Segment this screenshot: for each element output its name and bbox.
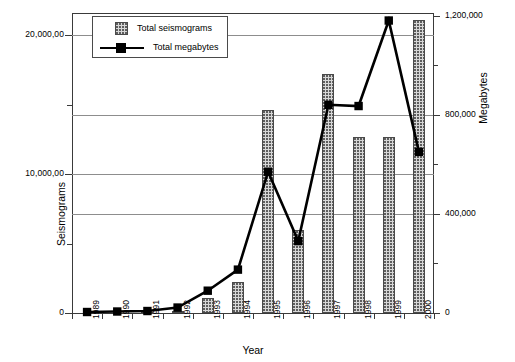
x-axis-tick-label: 1996 xyxy=(302,300,312,319)
right-axis-line xyxy=(433,13,434,313)
y-axis-minor-tick-left xyxy=(67,105,72,106)
y-axis-tick-mark-left xyxy=(65,35,72,36)
legend-item-total-seismograms: Total seismograms xyxy=(99,20,212,36)
x-axis-tick-label: 1994 xyxy=(242,300,252,319)
x-axis-title: Year xyxy=(72,344,434,356)
x-axis-tick-mark xyxy=(374,313,375,319)
bar xyxy=(262,110,274,313)
x-axis-tick-mark xyxy=(253,313,254,319)
x-axis-tick-mark xyxy=(223,313,224,319)
y-axis-minor-tick-left xyxy=(67,244,72,245)
chart-legend: Total seismograms Total megabytes xyxy=(92,16,228,58)
y-axis-tick-label-right: 0 xyxy=(445,307,515,317)
y-axis-tick-mark-left xyxy=(65,313,72,314)
x-axis-tick-label: 1997 xyxy=(332,300,342,319)
y-axis-title-right: Megabytes xyxy=(477,23,489,173)
x-axis-tick-label: 1989 xyxy=(91,300,101,319)
y-axis-tick-mark-right xyxy=(433,115,440,116)
y-axis-tick-mark-right xyxy=(433,214,440,215)
x-axis-tick-mark xyxy=(132,313,133,319)
x-axis-tick-label: 1992 xyxy=(182,300,192,319)
bar xyxy=(353,137,365,313)
seismogram-megabyte-chart: 010,000,0020,000,00 0400,000800,0001,200… xyxy=(0,0,515,362)
x-axis-tick-label: 1993 xyxy=(212,300,222,319)
x-axis-tick-mark xyxy=(193,313,194,319)
x-axis-tick-label: 1995 xyxy=(272,300,282,319)
y-axis-tick-label-left: 0 xyxy=(0,307,64,317)
gridline xyxy=(72,174,434,175)
x-axis-tick-label: 1999 xyxy=(393,300,403,319)
plot-area xyxy=(72,13,434,313)
y-axis-tick-label-right: 1,200,000 xyxy=(445,10,515,20)
bar xyxy=(413,20,425,313)
x-axis-tick-label: 1991 xyxy=(151,300,161,319)
y-axis-tick-label-right: 400,000 xyxy=(445,208,515,218)
x-axis-tick-mark xyxy=(163,313,164,319)
legend-label: Total megabytes xyxy=(153,42,219,52)
x-axis-tick-label: 1990 xyxy=(121,300,131,319)
x-axis-tick-mark xyxy=(344,313,345,319)
x-axis-tick-mark xyxy=(434,313,435,319)
y-axis-minor-tick-right xyxy=(433,65,438,66)
bar-swatch-icon xyxy=(115,22,128,35)
legend-label: Total seismograms xyxy=(137,23,212,33)
x-axis-tick-label: 1998 xyxy=(363,300,373,319)
x-axis-tick-label: 2000 xyxy=(423,300,433,319)
line-marker-swatch-icon xyxy=(100,41,144,54)
y-axis-minor-tick-right xyxy=(433,263,438,264)
bar xyxy=(383,137,395,313)
y-axis-tick-label-left: 20,000,00 xyxy=(0,29,64,39)
x-axis-tick-mark xyxy=(283,313,284,319)
y-axis-title-left: Seismograms xyxy=(55,139,67,289)
gridline xyxy=(72,115,434,116)
x-axis-tick-mark xyxy=(313,313,314,319)
x-axis-tick-mark xyxy=(72,313,73,319)
gridline xyxy=(72,214,434,215)
bar xyxy=(322,74,334,313)
x-axis-tick-mark xyxy=(404,313,405,319)
x-axis-tick-mark xyxy=(102,313,103,319)
legend-item-total-megabytes: Total megabytes xyxy=(99,39,219,55)
y-axis-tick-mark-right xyxy=(433,16,440,17)
y-axis-minor-tick-right xyxy=(433,164,438,165)
